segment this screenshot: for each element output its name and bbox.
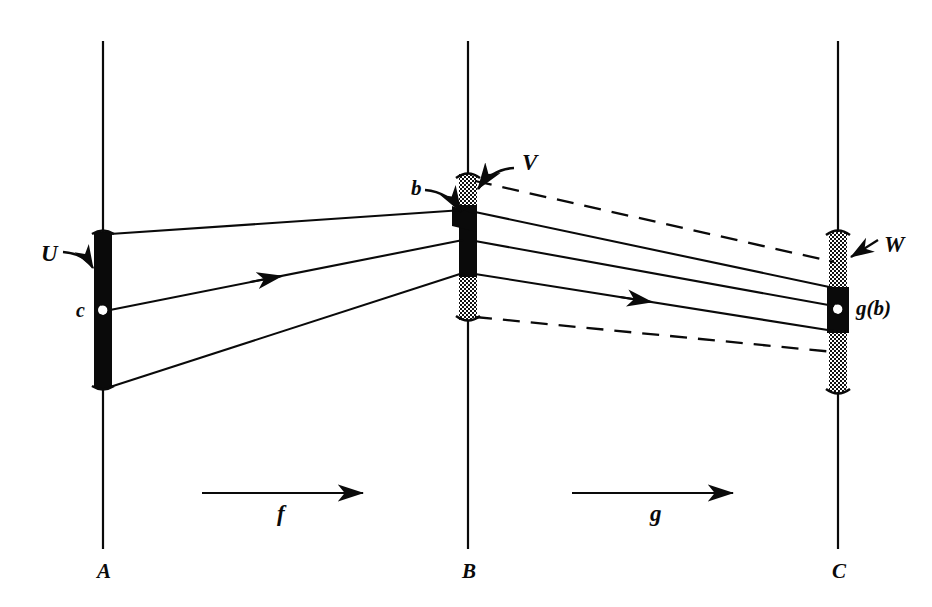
diagram-svg: U c b V W g(b) f g A B C — [0, 0, 932, 607]
label-line-C: C — [832, 559, 847, 583]
callout-arrow-V — [478, 168, 514, 189]
connector-A-to-B-middle — [110, 240, 463, 310]
dashed-connector-group — [475, 181, 834, 352]
label-map-f: f — [277, 501, 287, 526]
label-set-U: U — [41, 241, 59, 266]
label-set-W: W — [884, 232, 906, 257]
callout-arrow-W — [851, 240, 878, 257]
callout-arrow-U — [63, 252, 93, 268]
connector-A-to-B-bottom — [110, 273, 463, 387]
connector-B-to-C-bottom — [475, 274, 834, 331]
label-map-g: g — [649, 501, 662, 526]
connector-A-to-B-top — [110, 210, 463, 234]
label-line-A: A — [95, 559, 111, 583]
label-image-g-of-b: g(b) — [855, 296, 891, 320]
connector-A-to-B-arrowhead — [250, 276, 282, 282]
label-point-b: b — [411, 176, 422, 200]
connector-B-to-C-arrowhead — [620, 297, 652, 302]
label-set-V: V — [522, 150, 539, 175]
label-point-c: c — [76, 299, 85, 321]
connector-group-A-to-B — [110, 210, 463, 387]
figure-canvas: U c b V W g(b) f g A B C — [0, 0, 932, 607]
image-g-of-b — [827, 287, 849, 333]
label-line-B: B — [461, 559, 476, 583]
connector-group-B-to-C — [475, 212, 834, 331]
